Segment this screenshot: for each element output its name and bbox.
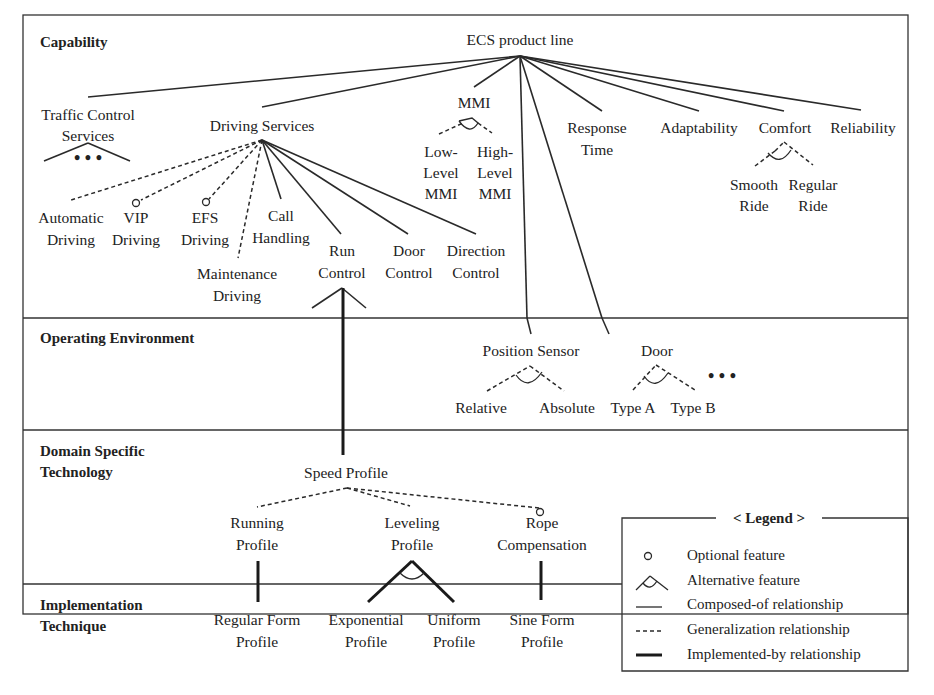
band-labels: Capability Operating Environment Domain … [40,34,194,634]
band-label-operating-environment: Operating Environment [40,330,194,346]
legend-item-alternative: Alternative feature [687,572,800,588]
node-smooth-ride: Smooth [730,176,778,193]
node-maintenance-driving: Maintenance [197,265,277,282]
node-smooth-ride: Ride [739,197,768,214]
node-reliability: Reliability [830,119,896,136]
node-call-handling: Call [268,207,294,224]
node-speed-profile: Speed Profile [304,464,388,481]
node-absolute: Absolute [539,399,595,416]
node-mmi: MMI [458,94,491,111]
band-label-implementation-technique: Technique [40,618,106,634]
node-automatic-driving: Driving [47,231,95,248]
node-regular-ride: Ride [798,197,827,214]
node-low-level-mmi: Level [423,164,458,181]
node-ecs-product-line: ECS product line [467,31,574,48]
node-type-b: Type B [671,399,716,416]
node-leveling-profile: Leveling [384,514,439,531]
node-response-time: Response [567,119,627,136]
node-traffic-control-services: Services [62,127,115,144]
band-label-implementation-technique: Implementation [40,597,143,613]
optional-marker [203,199,210,206]
node-vip-driving: Driving [112,231,160,248]
node-regular-ride: Regular [788,176,838,193]
node-maintenance-driving: Driving [213,287,261,304]
node-high-level-mmi: Level [477,164,512,181]
node-relative: Relative [455,399,507,416]
implementation-technique-layer: Regular Form Profile Exponential Profile… [214,611,575,650]
node-direction-control: Control [452,264,499,281]
ellipsis: • • • [708,366,736,386]
node-low-level-mmi: MMI [425,185,458,202]
node-exponential-profile: Exponential [329,611,404,628]
node-uniform-profile: Uniform [427,611,480,628]
node-low-level-mmi: Low- [424,143,458,160]
optional-feature-icon [645,553,652,560]
operating-environment-layer: Position Sensor Relative Absolute Door T… [455,318,736,416]
ellipsis: • • • [74,148,102,168]
node-efs-driving: Driving [181,231,229,248]
node-traffic-control-services: Traffic Control [41,106,134,123]
node-rope-compensation: Rope [526,514,559,531]
node-sine-form-profile: Profile [521,633,563,650]
legend-title: < Legend > [733,510,805,526]
node-rope-compensation: Compensation [497,536,587,553]
node-position-sensor: Position Sensor [483,342,581,359]
node-automatic-driving: Automatic [38,209,104,226]
node-vip-driving: VIP [124,209,149,226]
domain-specific-technology-layer: Speed Profile Running Profile Leveling P… [230,464,587,602]
node-door-control: Door [393,242,426,259]
legend-item-composed-of: Composed-of relationship [687,596,843,612]
legend-item-optional: Optional feature [687,547,785,563]
legend-item-implemented-by: Implemented-by relationship [687,646,861,662]
node-call-handling: Handling [252,229,310,246]
node-efs-driving: EFS [192,209,219,226]
node-type-a: Type A [611,399,657,416]
legend-item-generalization: Generalization relationship [687,621,850,637]
node-run-control: Run [329,242,355,259]
node-regular-form-profile: Profile [236,633,278,650]
node-exponential-profile: Profile [345,633,387,650]
band-label-capability: Capability [40,34,108,50]
node-regular-form-profile: Regular Form [214,611,301,628]
node-running-profile: Running [230,514,284,531]
node-sine-form-profile: Sine Form [509,611,574,628]
node-driving-services: Driving Services [210,117,315,134]
band-label-domain-specific-technology: Domain Specific [40,443,145,459]
node-door-control: Control [385,264,432,281]
node-run-control: Control [318,264,365,281]
node-comfort: Comfort [759,119,812,136]
node-running-profile: Profile [236,536,278,553]
node-uniform-profile: Profile [433,633,475,650]
optional-marker [133,200,140,207]
node-adaptability: Adaptability [660,119,738,136]
node-high-level-mmi: MMI [479,185,512,202]
band-label-domain-specific-technology: Technology [40,464,113,480]
node-direction-control: Direction [447,242,506,259]
node-response-time: Time [581,141,613,158]
node-door: Door [641,342,674,359]
alternative-feature-icon [636,576,668,590]
node-leveling-profile: Profile [391,536,433,553]
legend: < Legend > Optional feature Alternative … [622,508,908,671]
feature-diagram: Capability Operating Environment Domain … [0,0,934,695]
node-high-level-mmi: High- [477,143,513,160]
capability-nodes: ECS product line Traffic Control Service… [38,31,896,304]
